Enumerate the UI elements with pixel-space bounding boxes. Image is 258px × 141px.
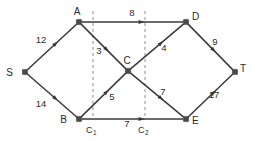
edge-s-to-b	[27, 74, 76, 117]
node-label-b: B	[60, 114, 67, 125]
cut-label-c1-subscript: 1	[93, 129, 97, 136]
edge-a-to-d-capacity-label: 8	[129, 7, 134, 18]
edge-b-to-c-capacity-label: 5	[109, 91, 114, 102]
node-label-s: S	[6, 67, 13, 78]
node-label-t: T	[240, 63, 246, 74]
node-d[interactable]	[183, 19, 188, 24]
arrowheads-layer	[52, 20, 216, 121]
edge-a-to-c	[81, 24, 126, 69]
cut-label-c2-subscript: 2	[145, 129, 149, 136]
flow-network-diagram: 1214835747917SABCDETC1C2	[0, 0, 258, 141]
edge-c-to-e-capacity-label: 7	[160, 86, 165, 97]
cut-label-c1: C1	[86, 125, 97, 136]
node-label-e: E	[192, 115, 199, 126]
node-label-d: D	[192, 11, 199, 22]
node-s[interactable]	[22, 69, 27, 74]
node-t[interactable]	[232, 69, 237, 74]
edge-d-to-t	[188, 24, 233, 70]
edge-c-to-e	[130, 73, 183, 117]
edge-b-to-e-arrowhead	[139, 117, 145, 121]
edge-a-to-d-arrowhead	[139, 20, 145, 24]
nodes-layer	[22, 19, 237, 121]
edge-c-to-d-capacity-label: 4	[161, 42, 166, 53]
node-a[interactable]	[76, 19, 81, 24]
edge-s-to-a	[27, 24, 77, 70]
edge-e-to-t-capacity-label: 17	[209, 89, 220, 100]
network-canvas: 1214835747917SABCDETC1C2	[0, 0, 258, 141]
node-label-c: C	[123, 55, 130, 66]
node-label-a: A	[74, 6, 81, 17]
node-c[interactable]	[125, 68, 130, 73]
edge-b-to-e-capacity-label: 7	[124, 118, 129, 129]
node-e[interactable]	[183, 116, 188, 121]
edge-a-to-c-capacity-label: 3	[96, 45, 101, 56]
cut-label-c2: C2	[138, 125, 149, 136]
edge-b-to-c	[81, 73, 126, 117]
node-b[interactable]	[76, 116, 81, 121]
edge-s-to-a-capacity-label: 12	[36, 34, 47, 45]
edge-c-to-d	[130, 24, 183, 69]
edge-s-to-b-capacity-label: 14	[36, 98, 47, 109]
edge-d-to-t-capacity-label: 9	[212, 36, 217, 47]
